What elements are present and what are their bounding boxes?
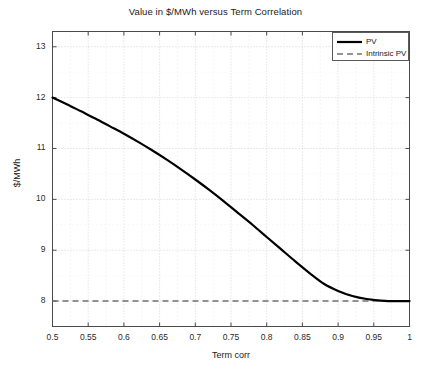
x-tick-label: 0.9 bbox=[318, 332, 358, 342]
x-tick-label: 0.7 bbox=[175, 332, 215, 342]
x-tick-label: 0.95 bbox=[354, 332, 394, 342]
y-tick-label: 12 bbox=[22, 92, 46, 102]
x-tick-label: 0.85 bbox=[282, 332, 322, 342]
legend-label-pv: PV bbox=[366, 37, 377, 46]
x-tick-label: 0.8 bbox=[247, 332, 287, 342]
vertical-gridlines bbox=[88, 32, 374, 327]
y-tick-label: 13 bbox=[22, 41, 46, 51]
y-tick-label: 8 bbox=[22, 295, 46, 305]
y-tick-label: 10 bbox=[22, 193, 46, 203]
x-tick-label: 0.65 bbox=[140, 332, 180, 342]
y-tick-label: 9 bbox=[22, 244, 46, 254]
x-tick-label: 0.6 bbox=[104, 332, 144, 342]
legend-entry-intrinsic-pv: Intrinsic PV bbox=[333, 47, 408, 60]
x-tick-label: 0.5 bbox=[33, 332, 73, 342]
x-tick-label: 1 bbox=[390, 332, 430, 342]
x-tick-label: 0.75 bbox=[211, 332, 251, 342]
legend-label-intrinsic-pv: Intrinsic PV bbox=[366, 49, 406, 58]
legend-swatch-solid-line-icon bbox=[336, 37, 363, 47]
chart-legend: PV Intrinsic PV bbox=[332, 32, 409, 61]
chart-figure: Value in $/MWh versus Term Correlation $… bbox=[0, 0, 431, 372]
legend-swatch-dashed-line-icon bbox=[336, 49, 363, 59]
x-tick-label: 0.55 bbox=[68, 332, 108, 342]
y-tick-label: 11 bbox=[22, 142, 46, 152]
